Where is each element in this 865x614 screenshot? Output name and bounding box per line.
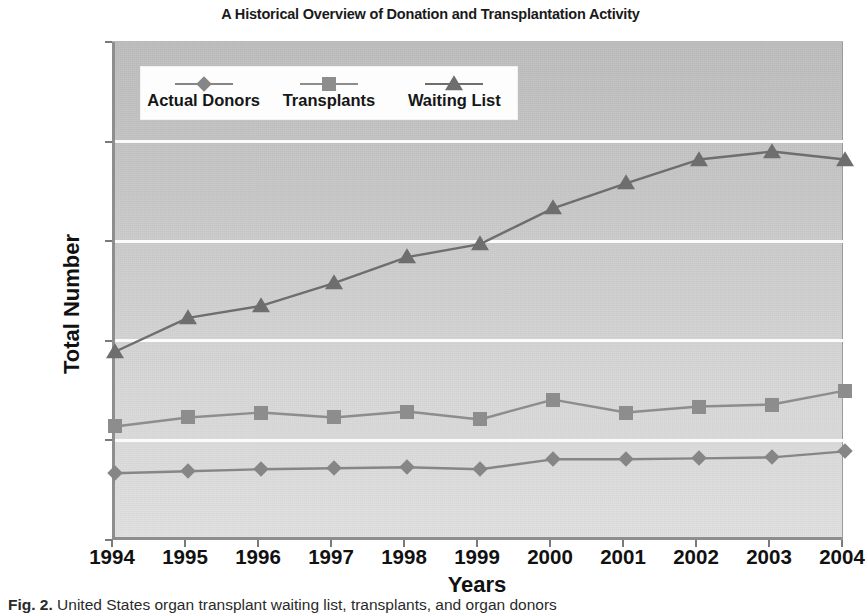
chart-legend: Actual DonorsTransplantsWaiting List — [140, 66, 518, 120]
data-point-transplants-2000 — [546, 393, 560, 407]
x-tick-mark-1996 — [257, 540, 259, 547]
x-tick-label-2000: 2000 — [527, 545, 573, 569]
x-tick-mark-2003 — [768, 540, 770, 547]
data-point-transplants-1999 — [473, 412, 487, 426]
x-tick-mark-1998 — [403, 540, 405, 547]
data-point-waiting-list-2000 — [544, 200, 562, 215]
legend-swatch-waiting-list — [425, 77, 483, 90]
figure-number: Fig. 2. — [8, 596, 53, 613]
data-point-waiting-list-1996 — [252, 297, 270, 312]
data-point-waiting-list-2001 — [617, 175, 635, 190]
legend-label-transplants: Transplants — [283, 91, 376, 110]
data-point-waiting-list-1997 — [325, 274, 343, 289]
legend-swatch-actual-donors — [175, 77, 233, 90]
y-tick-mark-2500 — [105, 41, 112, 43]
legend-label-waiting-list: Waiting List — [408, 91, 501, 110]
x-tick-mark-1997 — [330, 540, 332, 547]
x-tick-mark-2004 — [841, 540, 843, 547]
legend-entry-actual-donors[interactable]: Actual Donors — [141, 67, 266, 119]
y-tick-mark-2000 — [105, 141, 112, 143]
data-point-waiting-list-1995 — [179, 309, 197, 324]
data-point-transplants-1998 — [400, 405, 414, 419]
x-tick-mark-2000 — [549, 540, 551, 547]
data-point-transplants-1995 — [181, 410, 195, 424]
data-point-waiting-list-1994 — [106, 343, 124, 358]
data-point-waiting-list-2003 — [763, 143, 781, 158]
data-point-waiting-list-2002 — [690, 151, 708, 166]
legend-label-actual-donors: Actual Donors — [147, 91, 260, 110]
x-tick-label-1999: 1999 — [454, 545, 500, 569]
x-tick-mark-1994 — [111, 540, 113, 547]
x-tick-label-2004: 2004 — [819, 545, 865, 569]
legend-marker-square-icon — [322, 77, 336, 91]
x-tick-mark-2002 — [695, 540, 697, 547]
x-tick-label-1996: 1996 — [235, 545, 281, 569]
data-point-transplants-1996 — [254, 406, 268, 420]
x-tick-mark-2001 — [622, 540, 624, 547]
data-point-waiting-list-2004 — [836, 151, 854, 166]
x-tick-mark-1999 — [476, 540, 478, 547]
x-tick-label-2003: 2003 — [746, 545, 792, 569]
y-tick-mark-1500 — [105, 240, 112, 242]
legend-marker-diamond-icon — [196, 76, 212, 92]
x-tick-label-1997: 1997 — [308, 545, 354, 569]
series-line-waiting-list — [115, 152, 845, 352]
x-tick-label-1998: 1998 — [381, 545, 427, 569]
data-point-waiting-list-1999 — [471, 235, 489, 250]
figure-caption: Fig. 2. United States organ transplant w… — [8, 596, 853, 614]
data-point-waiting-list-1998 — [398, 248, 416, 263]
chart-title: A Historical Overview of Donation and Tr… — [0, 6, 861, 22]
data-point-transplants-1994 — [108, 419, 122, 433]
x-tick-mark-1995 — [184, 540, 186, 547]
x-tick-label-1995: 1995 — [162, 545, 208, 569]
x-tick-label-2002: 2002 — [673, 545, 719, 569]
data-point-transplants-2003 — [765, 398, 779, 412]
data-point-transplants-2002 — [692, 400, 706, 414]
y-axis-label: Total Number — [59, 194, 85, 414]
x-tick-label-1994: 1994 — [89, 545, 135, 569]
data-point-transplants-1997 — [327, 410, 341, 424]
legend-entry-transplants[interactable]: Transplants — [266, 67, 391, 119]
x-axis-label: Years — [112, 572, 842, 598]
legend-entry-waiting-list[interactable]: Waiting List — [392, 67, 517, 119]
legend-marker-triangle-icon — [445, 75, 463, 90]
x-tick-label-2001: 2001 — [600, 545, 646, 569]
y-tick-mark-500 — [105, 439, 112, 441]
caption-text: United States organ transplant waiting l… — [57, 596, 557, 613]
data-point-transplants-2001 — [619, 406, 633, 420]
legend-swatch-transplants — [300, 77, 358, 90]
data-point-transplants-2004 — [838, 384, 852, 398]
y-tick-mark-1000 — [105, 340, 112, 342]
